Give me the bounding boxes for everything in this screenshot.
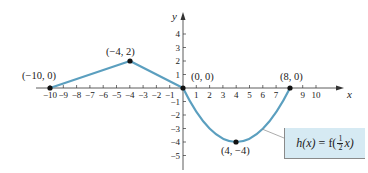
fn-eq: = f( [316, 136, 337, 151]
x-tick-label: 4 [234, 90, 239, 100]
fraction-denominator: 2 [338, 144, 342, 152]
y-tick-label: −3 [170, 124, 180, 134]
x-tick-label: −2 [152, 90, 162, 100]
label-neg4-2: (−4, 2) [106, 46, 135, 58]
leader-line [262, 129, 284, 138]
y-axis-label: y [171, 10, 177, 22]
x-tick-label: 3 [221, 90, 226, 100]
point-neg4-2 [127, 58, 132, 63]
x-tick-label: −10 [43, 90, 58, 100]
y-tick-label: −2 [170, 110, 180, 120]
fn-name: h(x) [296, 136, 315, 151]
x-tick-label: 6 [261, 90, 266, 100]
y-tick-label: −5 [170, 151, 180, 161]
x-tick-label: −9 [59, 90, 69, 100]
label-8-0: (8, 0) [280, 71, 303, 83]
x-tick-label: −8 [72, 90, 82, 100]
curve-linear-part [50, 61, 183, 88]
y-tick-label: −4 [170, 137, 180, 147]
label-0-0: (0, 0) [191, 71, 214, 83]
point-neg10-0 [47, 85, 52, 90]
y-tick-label: 1 [176, 70, 181, 80]
x-tick-label: −5 [112, 90, 122, 100]
x-axis-label: x [346, 88, 352, 100]
x-axis [36, 86, 344, 91]
x-tick-label: 2 [207, 90, 212, 100]
x-tick-label: −6 [98, 90, 108, 100]
x-tick-label: −4 [125, 90, 135, 100]
point-4-neg4 [233, 139, 238, 144]
y-tick-label: 4 [176, 29, 181, 39]
fraction-half: 12 [337, 135, 343, 152]
x-tick-label: −3 [138, 90, 148, 100]
point-0-0 [180, 85, 185, 90]
label-4-neg4: (4, −4) [221, 145, 250, 157]
point-8-0 [287, 85, 292, 90]
x-tick-label: 10 [312, 90, 322, 100]
function-label-box: h(x) = f(12x) [284, 128, 365, 159]
y-tick-label: 2 [176, 56, 181, 66]
fn-tail: x) [344, 136, 353, 151]
x-tick-label: 5 [247, 90, 252, 100]
y-tick-label: −1 [170, 97, 180, 107]
x-tick-label: 9 [300, 90, 305, 100]
y-tick-label: 3 [176, 43, 181, 53]
x-tick-label: 1 [194, 90, 199, 100]
x-tick-label: −7 [85, 90, 95, 100]
label-neg10-0: (−10, 0) [22, 70, 56, 82]
x-tick-label: 7 [274, 90, 279, 100]
